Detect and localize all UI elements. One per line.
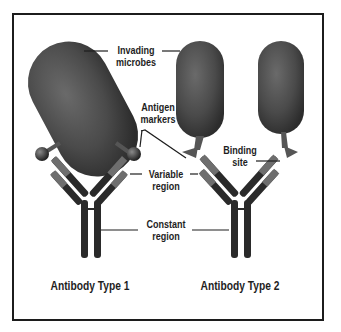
label-variable-region: Variable region (143, 168, 189, 192)
label-binding-site: Binding site (222, 144, 258, 168)
caption-antibody-type-2: Antibody Type 2 (199, 279, 281, 293)
microbe-2 (176, 41, 224, 150)
caption-antibody-type-1: Antibody Type 1 (49, 279, 131, 293)
binding-site-right (284, 146, 298, 158)
antigen-marker-left (35, 147, 49, 161)
label-antigen-markers: Antigen markers (135, 101, 181, 125)
label-invading-microbes: Invading microbes (113, 44, 159, 68)
microbe-3 (258, 41, 304, 148)
antigen-marker-right (127, 147, 141, 161)
label-constant-region: Constant region (141, 218, 190, 242)
